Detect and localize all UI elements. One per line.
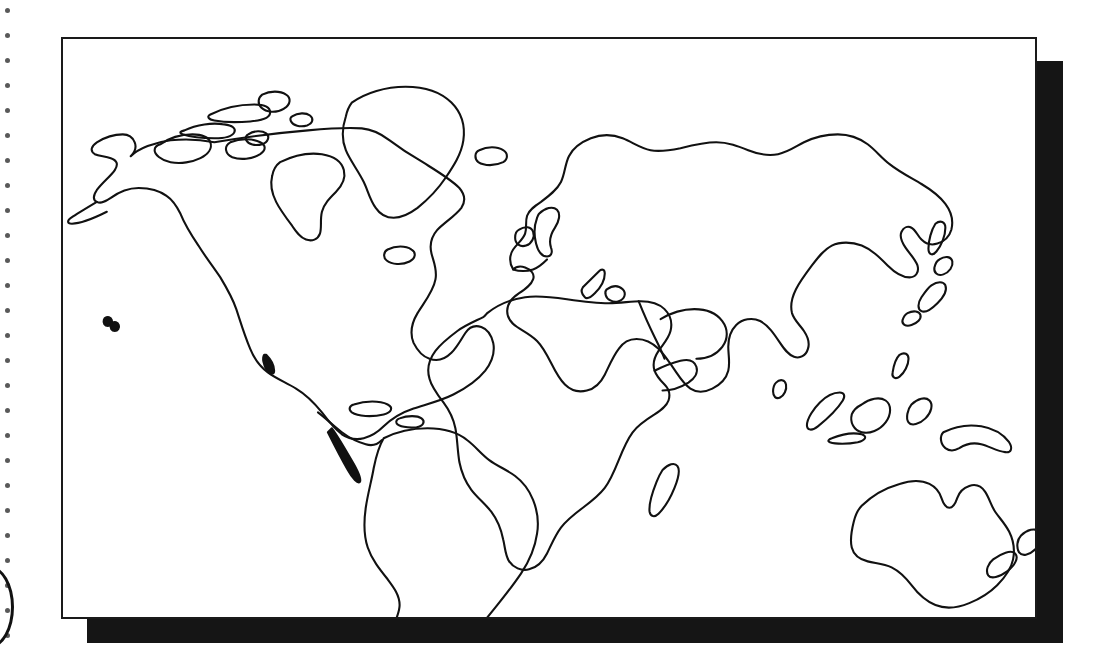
landmass-new-guinea xyxy=(941,426,1011,453)
binding-hole xyxy=(5,333,10,338)
binding-hole xyxy=(5,408,10,413)
binding-hole xyxy=(5,508,10,513)
binding-hole xyxy=(5,83,10,88)
page-canvas xyxy=(0,0,1101,664)
binding-hole xyxy=(5,258,10,263)
landmass-italy xyxy=(582,270,605,298)
landmass-sakhalin xyxy=(928,222,945,255)
binding-hole xyxy=(5,308,10,313)
landmass-sumatra xyxy=(807,393,844,430)
landmass-africa xyxy=(428,296,671,569)
landmass-central-america xyxy=(318,412,382,445)
landmass-sulawesi xyxy=(907,398,931,424)
binding-hole xyxy=(5,8,10,13)
landmass-hawaii-island-2 xyxy=(111,322,119,331)
landmass-japan-kyushu xyxy=(902,311,920,325)
landmass-balkans-greece xyxy=(605,286,624,301)
landmass-java xyxy=(828,433,865,443)
binding-hole xyxy=(5,108,10,113)
binding-hole xyxy=(5,233,10,238)
landmass-red-sea-line xyxy=(639,301,665,359)
world-outline-map xyxy=(63,39,1035,617)
landmass-iberia-notch xyxy=(513,259,547,270)
landmass-south-america xyxy=(364,428,537,617)
landmass-arctic-island-g xyxy=(290,113,312,126)
binding-hole xyxy=(5,33,10,38)
binding-hole xyxy=(5,383,10,388)
binding-hole xyxy=(5,283,10,288)
landmass-arctic-island-d xyxy=(226,139,265,159)
landmass-arctic-island-e xyxy=(259,92,290,112)
landmass-newfoundland xyxy=(384,247,415,264)
landmass-greenland xyxy=(343,87,464,218)
binding-hole xyxy=(5,133,10,138)
landmass-iceland xyxy=(475,147,507,165)
spiral-binding-holes xyxy=(0,0,24,664)
landmass-arctic-island-b xyxy=(180,124,234,139)
binding-hole xyxy=(5,458,10,463)
binding-hole xyxy=(5,433,10,438)
landmass-japan-honshu xyxy=(918,282,945,311)
landmass-north-america xyxy=(92,128,494,439)
binding-hole xyxy=(5,183,10,188)
binding-hole xyxy=(5,158,10,163)
binding-hole xyxy=(5,533,10,538)
landmass-cuba xyxy=(350,401,391,416)
landmass-arctic-island-f xyxy=(246,131,268,145)
landmass-sri-lanka xyxy=(773,380,786,398)
landmass-borneo xyxy=(851,398,890,432)
map-border xyxy=(61,37,1037,619)
landmass-eurasia xyxy=(507,134,952,391)
landmass-hispaniola xyxy=(396,416,423,427)
landmass-great-britain xyxy=(535,208,559,257)
landmass-new-zealand-north xyxy=(1017,530,1035,555)
landmass-philippines xyxy=(892,353,908,378)
landmass-aleutian-tail xyxy=(68,202,107,224)
binding-hole xyxy=(5,58,10,63)
binding-hole xyxy=(5,358,10,363)
binding-hole xyxy=(5,208,10,213)
binding-hole xyxy=(5,558,10,563)
landmass-madagascar xyxy=(649,464,678,516)
landmass-baffin-island xyxy=(271,154,344,241)
landmass-japan-hokkaido xyxy=(934,257,952,275)
landmass-horn-of-africa xyxy=(655,360,697,391)
landmass-australia xyxy=(851,481,1014,608)
binding-hole xyxy=(5,483,10,488)
